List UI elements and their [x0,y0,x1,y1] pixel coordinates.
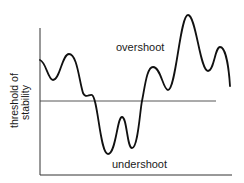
oscillation-curve [40,15,230,154]
undershoot-label: undershoot [112,158,167,170]
overshoot-label: overshoot [116,41,164,53]
stability-diagram: overshoot undershoot threshold of stabil… [0,0,244,183]
y-axis-label-line2: stability [19,84,31,120]
